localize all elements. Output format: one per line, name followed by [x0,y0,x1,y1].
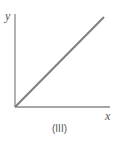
x-axis-label: x [105,110,110,122]
plot-area [0,0,119,141]
data-line [15,17,104,107]
figure-caption: (III) [52,124,67,134]
y-axis-label: y [5,10,10,22]
